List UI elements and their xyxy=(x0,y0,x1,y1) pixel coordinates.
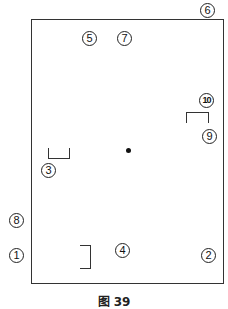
marker-3: 3 xyxy=(41,163,56,178)
marker-6: 6 xyxy=(200,3,215,18)
marker-10: 10 xyxy=(199,93,214,108)
marker-2: 2 xyxy=(201,248,216,263)
center-dot xyxy=(126,148,131,153)
bracket-top-right xyxy=(186,112,209,123)
marker-8: 8 xyxy=(9,213,24,228)
figure-caption: 图 39 xyxy=(0,292,228,309)
marker-7: 7 xyxy=(117,31,132,46)
marker-4: 4 xyxy=(115,243,130,258)
marker-9: 9 xyxy=(202,129,217,144)
bracket-left xyxy=(48,148,70,159)
marker-1: 1 xyxy=(9,248,24,263)
bracket-bottom xyxy=(80,245,91,269)
marker-5: 5 xyxy=(82,31,97,46)
